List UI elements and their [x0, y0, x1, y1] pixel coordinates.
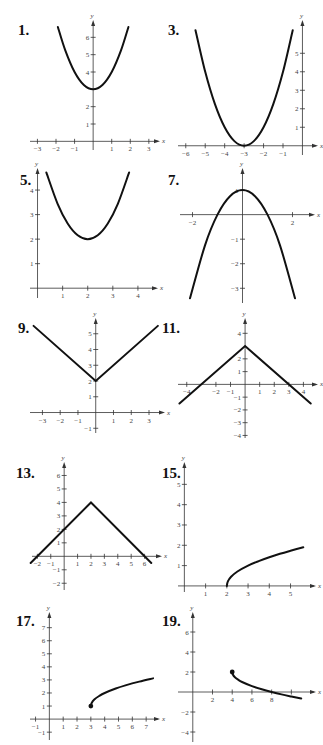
svg-text:1: 1: [112, 417, 116, 425]
svg-text:−1: −1: [234, 394, 242, 402]
y-axis-arrow-icon: [243, 318, 247, 324]
y-axis-arrow-icon: [36, 168, 40, 174]
x-axis-arrow-icon: [154, 139, 160, 143]
y-axis-arrow-icon: [191, 612, 195, 618]
x-axis-arrow-icon: [154, 717, 160, 721]
graph-11: xy−4−2−11234−4−3−2−1124: [178, 318, 318, 438]
graph-3: xy−6−5−4−3−2−112345: [178, 20, 318, 155]
y-axis-arrow-icon: [91, 20, 95, 26]
svg-text:5: 5: [57, 485, 61, 493]
svg-text:7: 7: [42, 624, 46, 632]
svg-text:6: 6: [57, 472, 61, 480]
svg-text:y: y: [242, 310, 247, 318]
svg-text:4: 4: [230, 696, 234, 704]
svg-text:2: 2: [89, 560, 93, 568]
function-curve: [232, 672, 301, 699]
y-axis-arrow-icon: [94, 318, 98, 324]
svg-text:5: 5: [42, 650, 46, 658]
x-axis-arrow-icon: [152, 286, 158, 290]
function-curve: [46, 172, 129, 239]
svg-text:4: 4: [103, 723, 107, 731]
svg-text:4: 4: [57, 499, 61, 507]
svg-text:−2: −2: [34, 560, 42, 568]
x-axis-arrow-icon: [156, 554, 162, 558]
svg-text:−2: −2: [260, 150, 268, 158]
exercise-number: 7.: [168, 172, 179, 189]
svg-text:x: x: [163, 552, 168, 560]
svg-text:−1: −1: [71, 145, 79, 153]
svg-text:3: 3: [57, 512, 61, 520]
svg-text:5: 5: [117, 723, 121, 731]
svg-text:−2: −2: [189, 219, 197, 227]
svg-text:−1: −1: [231, 236, 239, 244]
svg-text:6: 6: [86, 34, 90, 42]
x-axis-arrow-icon: [312, 144, 318, 148]
x-axis-arrow-icon: [159, 411, 165, 415]
svg-text:1: 1: [76, 560, 80, 568]
svg-text:3: 3: [111, 292, 115, 300]
svg-text:4: 4: [42, 663, 46, 671]
svg-text:−4: −4: [181, 729, 189, 737]
plot-area: xy−3−2−1123−112345: [30, 318, 165, 433]
svg-text:5: 5: [88, 330, 92, 338]
exercise-number: 9.: [18, 320, 29, 337]
svg-text:x: x: [317, 688, 322, 696]
svg-text:−1: −1: [53, 566, 61, 574]
svg-text:y: y: [34, 160, 39, 168]
svg-text:2: 2: [238, 355, 242, 363]
function-curve: [227, 547, 303, 586]
graph-1: xy−3−2−112312456: [30, 20, 160, 150]
svg-text:3: 3: [295, 87, 299, 95]
plot-area: xy−11234567−11234567: [30, 612, 160, 740]
svg-text:4: 4: [88, 346, 92, 354]
svg-text:−2: −2: [181, 709, 189, 717]
svg-text:3: 3: [147, 417, 151, 425]
svg-text:−3: −3: [240, 150, 248, 158]
svg-text:6: 6: [185, 629, 189, 637]
svg-text:x: x: [159, 284, 164, 292]
svg-text:y: y: [299, 12, 304, 20]
graph-13: xy−2−1123456−2−1123456: [32, 462, 162, 590]
svg-text:y: y: [189, 604, 194, 612]
svg-text:3: 3: [103, 560, 107, 568]
svg-text:4: 4: [295, 68, 299, 76]
svg-text:y: y: [181, 454, 186, 462]
function-curve: [91, 678, 153, 706]
svg-text:y: y: [61, 454, 66, 462]
graph-9: xy−3−2−1123−112345: [30, 318, 165, 433]
exercise-number: 13.: [16, 465, 35, 482]
exercise-number: 11.: [162, 320, 180, 337]
x-axis-arrow-icon: [310, 690, 316, 694]
svg-text:y: y: [90, 12, 95, 20]
graph-19: xy2468−4−2246: [178, 612, 316, 742]
plot-area: xy1234512345: [178, 462, 316, 592]
svg-text:1: 1: [204, 590, 208, 598]
svg-text:−2: −2: [56, 417, 64, 425]
exercise-number: 17.: [16, 613, 35, 630]
svg-text:−3: −3: [234, 419, 242, 427]
svg-text:6: 6: [42, 637, 46, 645]
exercise-number: 15.: [162, 465, 181, 482]
svg-text:2: 2: [211, 696, 215, 704]
graph-7: xy−22−3−2−11: [180, 168, 315, 303]
svg-text:−5: −5: [201, 150, 209, 158]
svg-text:4: 4: [136, 292, 140, 300]
svg-text:6: 6: [250, 696, 254, 704]
svg-text:−2: −2: [231, 260, 239, 268]
svg-text:y: y: [46, 604, 51, 612]
svg-text:1: 1: [238, 368, 242, 376]
svg-text:2: 2: [129, 145, 133, 153]
svg-text:−2: −2: [212, 388, 220, 396]
x-axis-arrow-icon: [309, 213, 315, 217]
plot-area: xy−6−5−4−3−2−112345: [178, 20, 318, 155]
exercise-number: 1.: [18, 22, 29, 39]
svg-text:3: 3: [88, 362, 92, 370]
svg-text:−6: −6: [182, 150, 190, 158]
svg-text:y: y: [239, 160, 244, 168]
svg-text:5: 5: [295, 50, 299, 58]
svg-text:−3: −3: [34, 145, 42, 153]
graph-5: xy12341234: [30, 168, 158, 298]
svg-text:−2: −2: [234, 406, 242, 414]
svg-text:−2: −2: [52, 145, 60, 153]
svg-text:y: y: [92, 310, 97, 318]
